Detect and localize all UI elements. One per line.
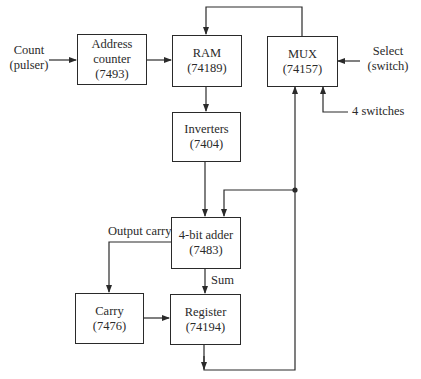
adder-title: 4-bit adder (179, 228, 234, 243)
inverters-part: (7404) (190, 137, 223, 152)
switches-to-mux-arrow (323, 87, 348, 112)
count-label-line2: (pulser) (4, 58, 54, 73)
count-input-label: Count (pulser) (4, 43, 54, 73)
address-counter-title2: counter (93, 52, 130, 67)
adder-part: (7483) (189, 243, 222, 258)
mux-title: MUX (288, 47, 317, 62)
ram-part: (74189) (187, 61, 227, 76)
count-label-line1: Count (4, 43, 54, 58)
inverters-title: Inverters (184, 122, 228, 137)
sum-label: Sum (211, 273, 234, 288)
address-counter-title: Address (92, 37, 133, 52)
ram-block: RAM (74189) (172, 35, 242, 87)
mux-block: MUX (74157) (267, 36, 338, 87)
carry-title: Carry (95, 304, 123, 319)
mux-part: (74157) (283, 62, 323, 77)
adder-block: 4-bit adder (7483) (171, 217, 241, 269)
address-counter-part: (7493) (95, 67, 128, 82)
register-title: Register (185, 305, 227, 320)
select-label-line2: (switch) (360, 59, 416, 74)
register-part: (74194) (186, 320, 226, 335)
bus-to-adder-arrow (224, 190, 295, 216)
carry-block: Carry (7476) (75, 293, 144, 344)
ram-title: RAM (193, 46, 221, 61)
select-label-line1: Select (360, 44, 416, 59)
mux-to-ram-arrow (206, 7, 302, 36)
address-counter-block: Address counter (7493) (77, 34, 147, 85)
carry-part: (7476) (93, 319, 126, 334)
switches-input-label: 4 switches (352, 104, 404, 119)
select-input-label: Select (switch) (360, 44, 416, 74)
block-diagram: Count (pulser) Select (switch) 4 switche… (0, 0, 421, 379)
output-carry-label: Output carry (108, 224, 172, 239)
junction-dot (292, 187, 297, 192)
inverters-block: Inverters (7404) (172, 112, 241, 162)
output-carry-arrow (109, 242, 171, 292)
register-block: Register (74194) (170, 294, 241, 345)
